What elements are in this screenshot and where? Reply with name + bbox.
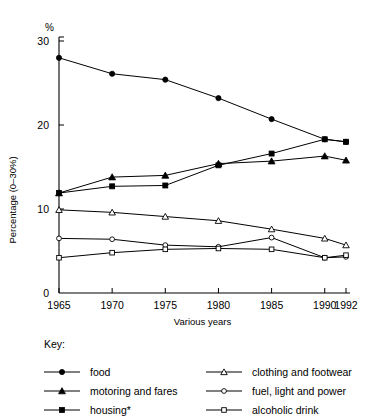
data-point [269,117,274,122]
marker-square [344,139,349,144]
marker-square [222,408,227,413]
data-point [110,250,115,255]
data-point [163,77,168,82]
series-food [56,55,348,144]
y-axis-title: Percentage (0–30%) [7,156,18,243]
y-tick-label: 10 [37,203,49,215]
marker-circle [163,77,168,82]
data-point [344,253,349,258]
data-point [56,55,61,60]
marker-circle [110,71,115,76]
key-item-clothing-and-footwear: clothing and footwear [206,366,352,378]
y-tick-label: 30 [37,35,49,47]
x-tick-label: 1980 [207,299,231,311]
marker-square [216,163,221,168]
marker-square [322,137,327,142]
data-point [57,255,62,260]
key-item-alcoholic-drink: alcoholic drink [206,404,319,416]
data-point [322,255,327,260]
x-tick-label: 1965 [47,299,71,311]
data-point [269,151,274,156]
y-tick-label: 0 [43,287,49,299]
data-point [110,237,115,242]
key-item-label: alcoholic drink [252,404,319,416]
y-tick-label: 20 [37,119,49,131]
series-fuel-light-and-power [57,235,349,260]
key-sample-marker [59,369,64,374]
data-point [322,137,327,142]
data-point [57,191,62,196]
data-point [57,236,62,241]
series-clothing-and-footwear [56,207,350,248]
data-point [344,139,349,144]
marker-circle [59,369,64,374]
marker-circle [56,55,61,60]
data-point [216,96,221,101]
key-sample-marker [222,408,227,413]
x-tick-label: 1992 [334,299,358,311]
key-group: Key:foodmotoring and fareshousing*clothi… [44,338,352,416]
x-ticks-group: 1965197019751980198519901992 [47,288,358,311]
key-item-label: fuel, light and power [252,385,346,397]
key-item-food: food [44,366,111,378]
marker-square [269,247,274,252]
x-tick-label: 1985 [260,299,284,311]
marker-square [57,191,62,196]
data-point [163,183,168,188]
series-line [59,210,346,245]
y-unit-label: % [45,22,54,33]
key-item-fuel-light-and-power: fuel, light and power [206,385,346,397]
marker-square [57,255,62,260]
marker-square [60,408,65,413]
key-sample-marker [60,408,65,413]
marker-square [269,151,274,156]
marker-circle [216,96,221,101]
key-item-housing-: housing* [44,404,131,416]
marker-circle [269,235,274,240]
series-motoring-and-fares [56,153,350,196]
key-title: Key: [44,338,65,350]
marker-square [322,255,327,260]
marker-square [216,246,221,251]
key-item-label: clothing and footwear [252,366,352,378]
marker-square [344,253,349,258]
key-item-label: food [90,366,111,378]
x-tick-label: 1970 [100,299,124,311]
line-chart: 01020301965197019751980198519901992%Perc… [0,0,377,418]
marker-circle [57,236,62,241]
series-line [59,139,346,193]
x-tick-label: 1990 [313,299,337,311]
data-point [216,246,221,251]
marker-square [110,250,115,255]
data-point [216,163,221,168]
data-point [110,71,115,76]
key-item-motoring-and-fares: motoring and fares [44,385,178,397]
series-housing- [57,137,349,196]
x-axis-title: Various years [174,316,232,327]
data-point [110,184,115,189]
marker-circle [269,117,274,122]
marker-square [110,184,115,189]
marker-circle [222,389,227,394]
key-sample-marker [222,389,227,394]
marker-square [163,247,168,252]
data-point [269,235,274,240]
key-item-label: housing* [90,404,131,416]
key-item-label: motoring and fares [90,385,178,397]
x-tick-label: 1975 [154,299,178,311]
data-point [269,247,274,252]
series-line [59,58,346,142]
series-alcoholic-drink [57,246,349,260]
marker-circle [110,237,115,242]
data-point [163,247,168,252]
chart-container: 01020301965197019751980198519901992%Perc… [0,0,377,418]
marker-square [163,183,168,188]
